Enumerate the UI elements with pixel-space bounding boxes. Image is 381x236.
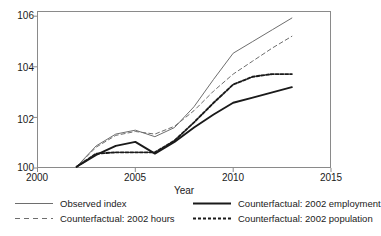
chart-legend: Observed index Counterfactual: 2002 empl… — [14, 196, 374, 230]
legend-label-counterfactual-hours: Counterfactual: 2002 hours — [60, 213, 175, 224]
series-line-3 — [77, 74, 292, 167]
solid-thick-line-key — [192, 198, 232, 209]
legend-item-counterfactual-population: Counterfactual: 2002 population — [192, 211, 374, 226]
legend-label-counterfactual-population: Counterfactual: 2002 population — [238, 213, 373, 224]
legend-row-1: Observed index Counterfactual: 2002 empl… — [14, 196, 374, 211]
legend-item-observed-index: Observed index — [14, 196, 192, 211]
x-axis-ticks — [38, 168, 332, 172]
legend-item-counterfactual-employment: Counterfactual: 2002 employment — [192, 196, 374, 211]
legend-row-2: Counterfactual: 2002 hours Counterfactua… — [14, 211, 374, 226]
y-axis-ticks — [33, 16, 37, 168]
series-line-1 — [77, 36, 292, 166]
data-series-layer — [77, 18, 292, 167]
series-line-2 — [77, 87, 292, 167]
legend-item-counterfactual-hours: Counterfactual: 2002 hours — [14, 211, 192, 226]
dotted-thick-line-key — [192, 213, 232, 224]
series-line-0 — [77, 18, 292, 167]
solid-thin-line-key — [14, 198, 54, 209]
legend-label-counterfactual-employment: Counterfactual: 2002 employment — [238, 198, 381, 209]
dashed-line-key — [14, 213, 54, 224]
legend-label-observed-index: Observed index — [60, 198, 127, 209]
